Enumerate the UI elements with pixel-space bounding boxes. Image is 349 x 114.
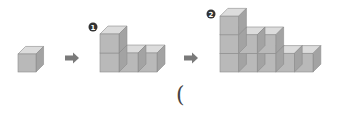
- figure-step2: [220, 8, 321, 72]
- svg-text:2: 2: [209, 11, 214, 19]
- cube-pattern-diagram: 12: [0, 0, 349, 114]
- step-badge-1: 1: [89, 23, 98, 32]
- figure-step1: [100, 26, 165, 72]
- arrow-right-icon: [65, 53, 79, 64]
- cube-front-face: [100, 53, 119, 72]
- cube-front-face: [18, 54, 36, 72]
- svg-text:1: 1: [91, 24, 96, 32]
- cube-front-face: [220, 53, 239, 72]
- step-badge-2: 2: [207, 10, 216, 19]
- cube-front-face: [220, 35, 239, 54]
- answer-open-parenthesis: (: [176, 84, 185, 106]
- cube-front-face: [100, 34, 119, 53]
- cube-front-face: [220, 16, 239, 35]
- figure-start: [18, 46, 44, 72]
- arrow-right-icon: [184, 53, 198, 64]
